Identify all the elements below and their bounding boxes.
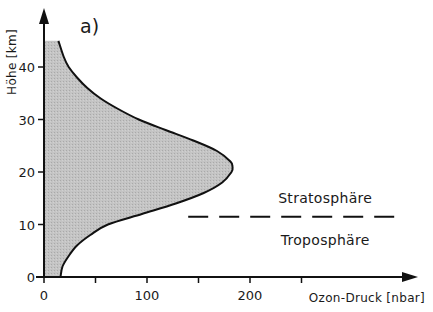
x-tick-label: 200 [238,288,263,303]
x-axis-arrow-icon [402,272,418,282]
x-axis-label: Ozon-Druck [nbar] [309,291,425,305]
ozone-profile-chart: 010203040 0100200 a) Höhe [km] Ozon-Druc… [0,0,433,312]
x-tick-label: 0 [40,288,48,303]
y-axis-label: Höhe [km] [5,29,19,95]
x-ticks: 0100200 [40,277,302,303]
panel-label: a) [80,15,99,37]
stratosphere-label: Stratosphäre [278,190,372,206]
y-tick-label: 0 [27,270,35,285]
ozone-area-fill [44,41,233,277]
x-tick-label: 100 [135,288,160,303]
y-tick-label: 30 [18,113,35,128]
y-tick-label: 40 [18,60,35,75]
y-ticks: 010203040 [18,60,44,285]
troposphere-label: Troposphäre [280,232,370,248]
y-axis-arrow-icon [39,8,49,24]
y-tick-label: 20 [18,165,35,180]
y-tick-label: 10 [18,218,35,233]
